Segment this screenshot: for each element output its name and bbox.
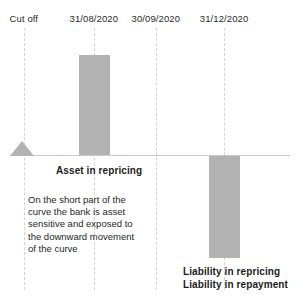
commentary-line-2: curve the bank is asset: [28, 206, 180, 218]
repricing-gap-chart: Cut off 31/08/2020 30/09/2020 31/12/2020…: [0, 0, 298, 300]
axis-label-31-08-2020: 31/08/2020: [70, 13, 119, 24]
liability-in-repricing-label: Liability in repricing: [183, 266, 280, 277]
bar-asset-repricing-31-08-2020: [79, 55, 110, 155]
commentary-line-3: sensitive and exposed to: [28, 218, 180, 230]
cut-off-triangle-icon: [10, 141, 34, 156]
bar-liability-repricing-31-12-2020: [209, 156, 240, 258]
commentary-text: On the short part of the curve the bank …: [28, 194, 180, 255]
axis-label-cut-off: Cut off: [10, 13, 39, 24]
axis-label-30-09-2020: 30/09/2020: [132, 13, 181, 24]
commentary-line-1: On the short part of the: [28, 194, 180, 206]
zero-baseline: [10, 155, 290, 156]
commentary-line-4: the downward movement: [28, 231, 180, 243]
gridline-cut-off: [24, 28, 25, 290]
liability-in-repayment-label: Liability in repayment: [183, 279, 288, 290]
commentary-line-5: of the curve: [28, 243, 180, 255]
axis-label-31-12-2020: 31/12/2020: [200, 13, 249, 24]
asset-in-repricing-label: Asset in repricing: [56, 165, 142, 176]
